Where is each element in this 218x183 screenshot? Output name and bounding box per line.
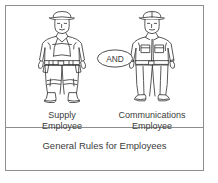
communications-employee-label-line2: Employee <box>102 121 202 132</box>
and-badge-label: AND <box>106 54 124 64</box>
communications-employee-label: Communications Employee <box>102 110 202 131</box>
diagram-caption: General Rules for Employees <box>6 140 203 151</box>
diagram-figures-row: AND Supply Employee Communications Emplo… <box>6 6 203 127</box>
supply-employee-figure <box>22 8 102 106</box>
supply-employee-label-line2: Employee <box>12 121 112 132</box>
supply-employee-label-line1: Supply <box>12 110 112 121</box>
supply-employee-label: Supply Employee <box>12 110 112 131</box>
communications-employee-label-line1: Communications <box>102 110 202 121</box>
and-operator-badge: AND <box>96 49 134 68</box>
